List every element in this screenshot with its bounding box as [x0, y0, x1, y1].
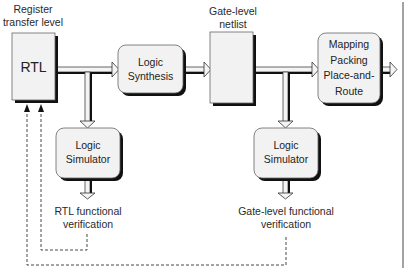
arrow-rtl-sim-output	[80, 180, 95, 199]
feedback-arrowhead-inner	[38, 104, 44, 112]
register-transfer-level-label: Register transfer level	[0, 3, 66, 29]
rtl-functional-verification-label: RTL functional verification	[44, 205, 132, 231]
mapping-label: Mapping Packing Place-and- Route	[318, 37, 380, 99]
logic-simulator-rtl-label: Logic Simulator	[56, 138, 120, 166]
gate-level-functional-verification-label: Gate-level functional verification	[226, 205, 346, 231]
arrow-synthesis-to-netlist	[185, 62, 211, 77]
gate-level-netlist-label: Gate-level netlist	[200, 5, 266, 31]
arrow-netlist-to-simulator	[278, 72, 293, 128]
arrow-rtl-to-simulator	[80, 72, 95, 128]
logic-simulator-gate-label: Logic Simulator	[254, 138, 318, 166]
rtl-label: RTL	[12, 59, 55, 75]
logic-synthesis-label: Logic Synthesis	[118, 55, 183, 83]
arrow-gate-sim-output	[278, 180, 293, 199]
gate-netlist-box	[210, 32, 256, 106]
arrow-mapping-output	[382, 62, 397, 77]
feedback-arrowhead-outer	[24, 104, 30, 112]
